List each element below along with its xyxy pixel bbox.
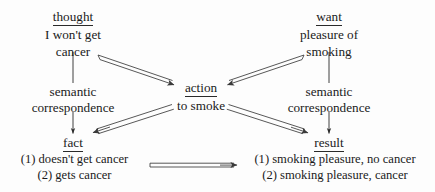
node-result-header: result xyxy=(289,134,369,152)
label-correspondence-right: correspondence xyxy=(259,99,399,116)
node-want-line2: smoking xyxy=(269,43,389,60)
label-semantic-right: semantic xyxy=(269,83,389,100)
node-fact-header-text: fact xyxy=(63,136,83,152)
node-fact-items: (1) doesn't get cancer (2) gets cancer xyxy=(2,151,147,184)
node-thought-header: thought xyxy=(13,8,133,26)
node-fact-item-1: (1) doesn't get cancer xyxy=(2,151,147,167)
node-action-header: action xyxy=(141,79,261,97)
node-thought-line1: I won't get xyxy=(13,26,133,43)
node-action: action to smoke xyxy=(141,79,261,114)
node-want-header-text: want xyxy=(316,10,342,26)
label-correspondence-left: correspondence xyxy=(3,99,143,116)
node-fact-header-block: fact xyxy=(33,134,113,152)
node-want-line1: pleasure of xyxy=(269,26,389,43)
label-semantic-right-text: semantic xyxy=(306,84,353,99)
node-result-item-2: (2) smoking pleasure, cancer xyxy=(236,167,434,183)
node-result-item-1: (1) smoking pleasure, no cancer xyxy=(236,151,434,167)
node-action-line1: to smoke xyxy=(141,97,261,114)
node-want-header: want xyxy=(269,8,389,26)
label-correspondence-left-text: correspondence xyxy=(32,100,115,115)
node-thought-line2: cancer xyxy=(13,43,133,60)
node-action-header-text: action xyxy=(185,81,217,97)
diagram-canvas: thought I won't get cancer want pleasure… xyxy=(0,0,435,192)
label-correspondence-right-text: correspondence xyxy=(288,100,371,115)
node-result-header-text: result xyxy=(314,136,343,152)
node-thought-header-text: thought xyxy=(53,10,93,26)
node-fact-header: fact xyxy=(33,134,113,152)
node-want: want pleasure of smoking xyxy=(269,8,389,60)
node-thought: thought I won't get cancer xyxy=(13,8,133,60)
node-fact-item-2: (2) gets cancer xyxy=(2,167,147,183)
node-result-header-block: result xyxy=(289,134,369,152)
edge-fact-result xyxy=(150,163,237,167)
label-semantic-left: semantic xyxy=(13,83,133,100)
label-semantic-left-text: semantic xyxy=(50,84,97,99)
node-result-items: (1) smoking pleasure, no cancer (2) smok… xyxy=(236,151,434,184)
